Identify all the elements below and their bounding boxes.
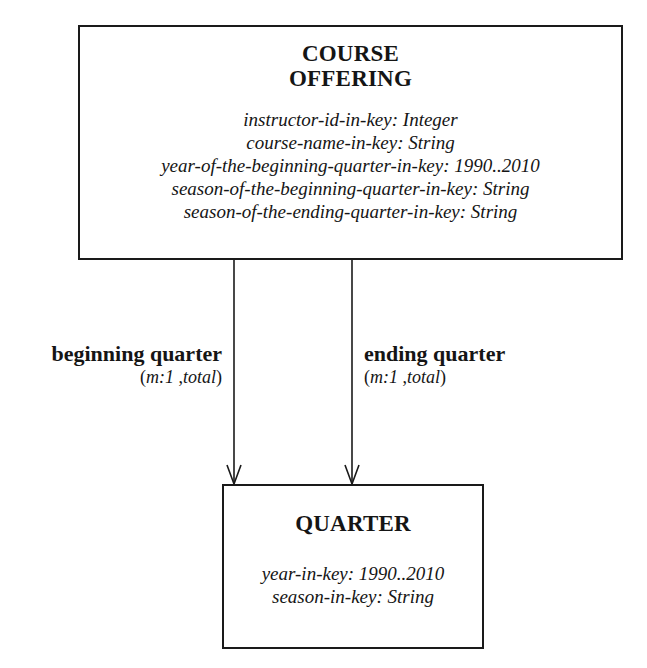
attribute-season: season-in-key: String — [224, 585, 482, 608]
relationship-label-ending-quarter: ending quarter (m:1 ,total) — [364, 342, 505, 388]
relationship-cardinality: (m:1 ,total) — [51, 366, 222, 388]
entity-title-line-1: COURSE — [302, 41, 399, 66]
attribute-list: instructor-id-in-key: Integer course-nam… — [80, 108, 621, 223]
entity-title-line-1: QUARTER — [295, 511, 411, 536]
entity-title: QUARTER — [224, 511, 482, 536]
attribute-season-ending-quarter: season-of-the-ending-quarter-in-key: Str… — [80, 200, 621, 223]
attribute-year: year-in-key: 1990..2010 — [224, 562, 482, 585]
entity-course-offering: COURSE OFFERING instructor-id-in-key: In… — [78, 25, 623, 260]
card-ratio: m:1 — [370, 367, 398, 387]
attribute-list: year-in-key: 1990..2010 season-in-key: S… — [224, 562, 482, 608]
entity-quarter: QUARTER year-in-key: 1990..2010 season-i… — [222, 484, 484, 649]
entity-title: COURSE OFFERING — [80, 41, 621, 91]
card-separator: , — [174, 367, 183, 387]
relationship-name: ending quarter — [364, 342, 505, 366]
attribute-instructor-id: instructor-id-in-key: Integer — [80, 108, 621, 131]
card-participation: total — [407, 367, 440, 387]
ending-quarter-arrow — [345, 260, 359, 484]
card-close: ) — [216, 367, 222, 387]
relationship-label-beginning-quarter: beginning quarter (m:1 ,total) — [51, 342, 222, 388]
attribute-year-beginning-quarter: year-of-the-beginning-quarter-in-key: 19… — [80, 154, 621, 177]
attribute-course-name: course-name-in-key: String — [80, 131, 621, 154]
attribute-season-beginning-quarter: season-of-the-beginning-quarter-in-key: … — [80, 177, 621, 200]
card-separator: , — [398, 367, 407, 387]
beginning-quarter-arrow — [227, 260, 241, 484]
card-participation: total — [183, 367, 216, 387]
card-ratio: m:1 — [146, 367, 174, 387]
card-close: ) — [440, 367, 446, 387]
relationship-name: beginning quarter — [51, 342, 222, 366]
entity-title-line-2: OFFERING — [289, 66, 412, 91]
relationship-cardinality: (m:1 ,total) — [364, 366, 505, 388]
